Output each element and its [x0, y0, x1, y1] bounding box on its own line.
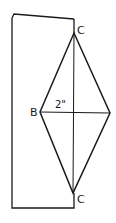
label-left-vertex: B: [30, 106, 38, 119]
label-measurement: 2": [55, 99, 66, 110]
paper-left-bottom-edge: [12, 18, 74, 208]
horizontal-diagonal: [40, 112, 110, 113]
rhombus: [40, 33, 110, 193]
label-bottom-vertex: C: [77, 193, 85, 206]
diagram-canvas: C B 2" C: [0, 0, 116, 223]
vertical-diagonal: [73, 33, 74, 193]
paper-outline: [12, 14, 74, 208]
label-top-vertex: C: [77, 24, 85, 37]
paper-fold-top-edge: [12, 14, 74, 19]
